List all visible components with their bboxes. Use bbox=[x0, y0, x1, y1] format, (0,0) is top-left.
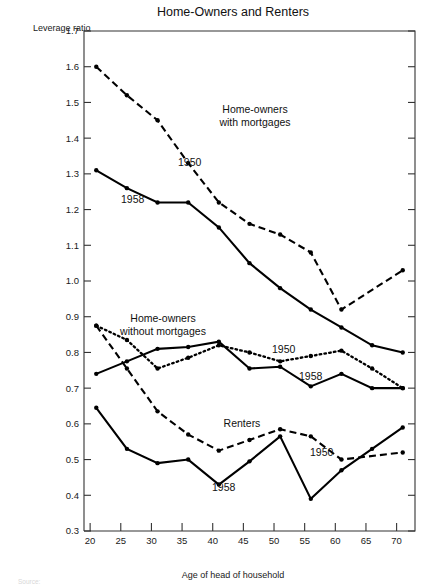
x-tick-label: 55 bbox=[299, 535, 310, 546]
y-tick-label: 0.7 bbox=[66, 383, 79, 394]
mortgages-1950-label: 1950 bbox=[178, 156, 202, 168]
data-point bbox=[125, 186, 129, 190]
data-point bbox=[155, 409, 159, 413]
y-tick-label: 1.2 bbox=[66, 204, 79, 215]
data-point bbox=[94, 406, 98, 410]
data-point bbox=[155, 461, 159, 465]
x-tick-label: 60 bbox=[330, 535, 341, 546]
data-point bbox=[370, 386, 374, 390]
data-point bbox=[370, 343, 374, 347]
renters-1950-label: 1950 bbox=[310, 446, 334, 458]
mortgages-group-label: Home-ownerswith mortgages bbox=[218, 103, 290, 128]
data-point bbox=[309, 434, 313, 438]
data-point bbox=[247, 261, 251, 265]
data-point bbox=[247, 438, 251, 442]
data-point bbox=[94, 65, 98, 69]
data-point bbox=[309, 354, 313, 358]
data-point bbox=[309, 497, 313, 501]
y-tick-label: 1.4 bbox=[66, 133, 79, 144]
data-point bbox=[278, 232, 282, 236]
y-tick-label: 1.1 bbox=[66, 240, 79, 251]
without-mortgages-1950-label: 1950 bbox=[272, 343, 296, 355]
data-point bbox=[94, 323, 98, 327]
renters-group-label: Renters bbox=[224, 417, 261, 429]
series-line-home-owners-without-mortgages-1958 bbox=[96, 342, 402, 388]
data-point bbox=[339, 325, 343, 329]
data-point bbox=[401, 425, 405, 429]
data-point bbox=[401, 268, 405, 272]
data-point bbox=[339, 372, 343, 376]
y-axis-title: Leverage ratio bbox=[33, 23, 91, 33]
x-tick-label: 30 bbox=[146, 535, 157, 546]
x-tick-label: 40 bbox=[207, 535, 218, 546]
x-tick-label: 70 bbox=[391, 535, 402, 546]
y-tick-label: 0.3 bbox=[66, 525, 79, 536]
data-point bbox=[401, 450, 405, 454]
data-point bbox=[186, 457, 190, 461]
data-point bbox=[309, 307, 313, 311]
data-point bbox=[125, 366, 129, 370]
mortgages-1958-label: 1958 bbox=[121, 193, 145, 205]
x-axis-title: Age of head of household bbox=[182, 570, 285, 580]
data-point bbox=[278, 359, 282, 363]
data-point bbox=[339, 348, 343, 352]
data-point bbox=[278, 427, 282, 431]
data-point bbox=[370, 366, 374, 370]
y-tick-label: 1.5 bbox=[66, 97, 79, 108]
data-point bbox=[217, 448, 221, 452]
data-series-layer bbox=[94, 65, 405, 502]
chart-title: Home-Owners and Renters bbox=[157, 5, 309, 19]
data-point bbox=[94, 168, 98, 172]
data-point bbox=[247, 459, 251, 463]
x-tick-label: 35 bbox=[177, 535, 188, 546]
y-tick-label: 0.6 bbox=[66, 418, 79, 429]
data-point bbox=[247, 366, 251, 370]
data-point bbox=[94, 372, 98, 376]
y-tick-label: 0.8 bbox=[66, 347, 79, 358]
data-point bbox=[155, 200, 159, 204]
data-point bbox=[125, 359, 129, 363]
data-point bbox=[155, 366, 159, 370]
data-point bbox=[278, 286, 282, 290]
data-point bbox=[125, 338, 129, 342]
series-group-2 bbox=[94, 323, 405, 501]
data-point bbox=[247, 350, 251, 354]
data-point bbox=[278, 365, 282, 369]
x-tick-label: 65 bbox=[361, 535, 372, 546]
y-tick-label: 0.5 bbox=[66, 454, 79, 465]
data-point bbox=[217, 340, 221, 344]
y-tick-label: 1.6 bbox=[66, 61, 79, 72]
without-mortgages-1958-label: 1958 bbox=[299, 370, 323, 382]
leverage-ratio-line-chart: Home-Owners and Renters Leverage ratio A… bbox=[0, 0, 434, 587]
without-mortgages-group-label: Home-ownerswithout mortgages bbox=[119, 312, 206, 337]
data-point bbox=[155, 118, 159, 122]
data-point bbox=[247, 222, 251, 226]
chart-canvas: Home-Owners and Renters Leverage ratio A… bbox=[0, 0, 434, 587]
data-point bbox=[339, 457, 343, 461]
data-point bbox=[186, 356, 190, 360]
data-point bbox=[309, 384, 313, 388]
data-point bbox=[125, 447, 129, 451]
data-point bbox=[125, 93, 129, 97]
data-point bbox=[186, 200, 190, 204]
data-point bbox=[186, 345, 190, 349]
renters-1958-label: 1958 bbox=[212, 481, 236, 493]
y-tick-label: 1.7 bbox=[66, 25, 79, 36]
x-tick-label: 20 bbox=[85, 535, 96, 546]
y-tick-label: 0.9 bbox=[66, 311, 79, 322]
x-axis-ticks: 2025303540455055606570 bbox=[85, 523, 402, 546]
data-point bbox=[401, 350, 405, 354]
data-point bbox=[401, 386, 405, 390]
y-tick-label: 0.4 bbox=[66, 490, 79, 501]
data-point bbox=[217, 225, 221, 229]
x-tick-label: 25 bbox=[115, 535, 126, 546]
x-tick-label: 50 bbox=[269, 535, 280, 546]
data-point bbox=[217, 200, 221, 204]
source-note: Source: bbox=[18, 578, 41, 585]
data-point bbox=[339, 307, 343, 311]
data-point bbox=[309, 250, 313, 254]
data-point bbox=[278, 434, 282, 438]
data-point bbox=[339, 468, 343, 472]
data-point bbox=[155, 347, 159, 351]
y-tick-label: 1.0 bbox=[66, 275, 79, 286]
